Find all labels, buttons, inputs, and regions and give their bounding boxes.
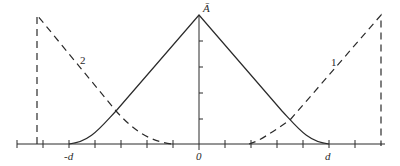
- curve-1-label: 1: [331, 57, 337, 68]
- tick-label-zero: 0: [196, 151, 202, 162]
- dashed-curve-2: [37, 15, 172, 144]
- y-axis-ticks: [199, 41, 203, 119]
- tick-label-pos-d: d: [325, 151, 331, 162]
- diagram-canvas: [0, 0, 400, 166]
- peak-label: Ā: [203, 3, 210, 14]
- diagram-figure: Ā 2 1 -d 0 d: [0, 0, 400, 166]
- dashed-curve-1: [249, 15, 381, 146]
- tick-label-neg-d: -d: [64, 151, 73, 162]
- curve-2-label: 2: [80, 55, 86, 66]
